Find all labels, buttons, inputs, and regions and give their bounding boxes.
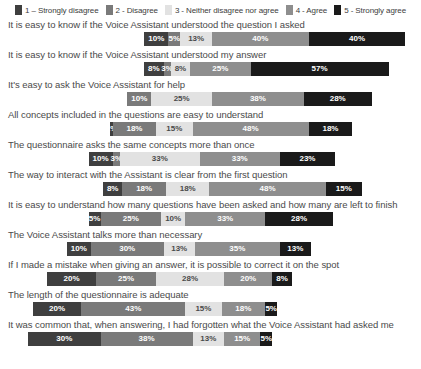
row-label: The questionnaire asks the same concepts… xyxy=(8,139,255,150)
bar-segment-value: 10% xyxy=(71,245,87,253)
bar-segment-value: 33% xyxy=(217,215,233,223)
bar-segment-value: 18% xyxy=(180,185,196,193)
chart-row: It's easy to ask the Voice Assistant for… xyxy=(0,79,421,109)
legend-label: 5 - Strongly agree xyxy=(344,6,406,15)
chart-row: The length of the questionnaire is adequ… xyxy=(0,289,421,319)
bar-segment-value: 28% xyxy=(291,215,307,223)
bar-segment-value: 25% xyxy=(212,65,228,73)
bar-segment-5[interactable]: 57% xyxy=(251,62,389,76)
bar-segment-5[interactable]: 40% xyxy=(309,32,406,46)
bar-segment-4[interactable]: 40% xyxy=(212,32,309,46)
bar-segment-value: 8% xyxy=(148,65,160,73)
stacked-bar: 10%5%13%40%40% xyxy=(144,32,405,46)
bar-segment-2[interactable]: 43% xyxy=(81,302,185,316)
bar-segment-3[interactable]: 10% xyxy=(161,212,185,226)
bar-segment-1[interactable]: 30% xyxy=(28,332,101,346)
stacked-bar: 10%3%33%33%23% xyxy=(89,152,336,166)
bar-segment-4[interactable]: 18% xyxy=(222,302,266,316)
bar-segment-4[interactable]: 35% xyxy=(195,242,280,256)
row-label: The way to interact with the Assistant i… xyxy=(8,169,287,180)
bar-segment-3[interactable]: 28% xyxy=(156,272,224,286)
bar-segment-1[interactable]: 5% xyxy=(89,212,101,226)
bar-segment-2[interactable]: 38% xyxy=(101,332,193,346)
bar-segment-5[interactable]: 13% xyxy=(280,242,311,256)
bar-segment-2[interactable]: 10% xyxy=(127,92,151,106)
bar-segment-value: 8% xyxy=(107,185,119,193)
bar-segment-2[interactable]: 30% xyxy=(91,242,164,256)
bar-segment-1[interactable]: 10% xyxy=(144,32,168,46)
legend-item-3[interactable]: 3 - Neither disagree nor agree xyxy=(165,5,279,15)
bar-segment-value: 18% xyxy=(322,125,338,133)
bar-segment-value: 15% xyxy=(336,185,352,193)
bar-segment-3[interactable]: 33% xyxy=(120,152,200,166)
legend-swatch-icon-2 xyxy=(106,5,113,15)
row-label: All concepts included in the questions a… xyxy=(8,109,263,120)
stacked-bar: 20%25%28%20%8% xyxy=(47,272,291,286)
bar-segment-5[interactable]: 23% xyxy=(280,152,336,166)
bar-segment-5[interactable]: 28% xyxy=(265,212,333,226)
bar-segment-value: 13% xyxy=(200,335,216,343)
bar-segment-4[interactable]: 38% xyxy=(212,92,304,106)
bar-segment-2[interactable]: 5% xyxy=(168,32,180,46)
bar-segment-value: 15% xyxy=(234,335,250,343)
bar-segment-2[interactable]: 18% xyxy=(122,182,166,196)
bar-segment-5[interactable]: 8% xyxy=(272,272,291,286)
bar-segment-1[interactable]: 10% xyxy=(67,242,91,256)
chart-row: It is easy to know if the Voice Assistan… xyxy=(0,49,421,79)
bar-segment-3[interactable]: 13% xyxy=(164,242,195,256)
bar-segment-value: 20% xyxy=(240,275,256,283)
bar-segment-value: 38% xyxy=(139,335,155,343)
bar-segment-1[interactable]: 20% xyxy=(47,272,95,286)
bar-segment-3[interactable]: 8% xyxy=(171,62,190,76)
bar-segment-5[interactable]: 18% xyxy=(309,122,353,136)
bar-segment-4[interactable]: 33% xyxy=(185,212,265,226)
legend-swatch-icon-1 xyxy=(15,5,22,15)
bar-segment-3[interactable]: 18% xyxy=(166,182,210,196)
stacked-bar: 30%38%13%15%5% xyxy=(28,332,272,346)
legend-label: 3 - Neither disagree nor agree xyxy=(175,6,279,15)
bar-segment-1[interactable]: 8% xyxy=(103,182,122,196)
bar-segment-value: 15% xyxy=(166,125,182,133)
legend-item-2[interactable]: 2 - Disagree xyxy=(106,5,158,15)
bar-segment-4[interactable]: 15% xyxy=(224,332,260,346)
bar-segment-2[interactable]: 18% xyxy=(113,122,157,136)
bar-segment-2[interactable]: 3% xyxy=(113,152,120,166)
bar-segment-value: 20% xyxy=(49,305,65,313)
row-label: It is easy to understand how many questi… xyxy=(8,199,397,210)
chart-row: If I made a mistake when giving an answe… xyxy=(0,259,421,289)
bar-segment-5[interactable]: 5% xyxy=(265,302,277,316)
bar-segment-value: 5% xyxy=(265,305,277,313)
bar-segment-value: 8% xyxy=(175,65,187,73)
row-label: The length of the questionnaire is adequ… xyxy=(8,289,189,300)
chart-row: It is easy to understand how many questi… xyxy=(0,199,421,229)
bar-segment-1[interactable]: 20% xyxy=(33,302,81,316)
bar-segment-3[interactable]: 13% xyxy=(180,32,211,46)
bar-segment-4[interactable]: 25% xyxy=(190,62,251,76)
legend-item-1[interactable]: 1 – Strongly disagree xyxy=(15,5,99,15)
bar-segment-1[interactable]: 10% xyxy=(89,152,113,166)
row-label: The Voice Assistant talks more than nece… xyxy=(8,229,202,240)
bar-segment-4[interactable]: 20% xyxy=(224,272,272,286)
bar-segment-5[interactable]: 15% xyxy=(326,182,362,196)
bar-segment-2[interactable]: 25% xyxy=(101,212,162,226)
bar-segment-2[interactable]: 25% xyxy=(96,272,157,286)
bar-segment-4[interactable]: 48% xyxy=(209,182,325,196)
legend-item-5[interactable]: 5 - Strongly agree xyxy=(334,5,406,15)
bar-segment-5[interactable]: 5% xyxy=(260,332,272,346)
bar-segment-4[interactable]: 33% xyxy=(200,152,280,166)
bar-segment-value: 33% xyxy=(152,155,168,163)
bar-segment-value: 43% xyxy=(125,305,141,313)
bar-segment-4[interactable]: 48% xyxy=(193,122,309,136)
legend-label: 1 – Strongly disagree xyxy=(25,6,99,15)
bar-segment-3[interactable]: 15% xyxy=(156,122,192,136)
legend-item-4[interactable]: 4 - Agree xyxy=(286,5,328,15)
bar-segment-value: 10% xyxy=(148,35,164,43)
bar-segment-3[interactable]: 13% xyxy=(193,332,224,346)
bar-segment-5[interactable]: 28% xyxy=(304,92,372,106)
bar-segment-3[interactable]: 25% xyxy=(151,92,212,106)
bar-segment-value: 10% xyxy=(165,215,181,223)
bar-segment-3[interactable]: 15% xyxy=(185,302,221,316)
legend-swatch-icon-3 xyxy=(165,5,172,15)
stacked-bar: 1%18%15%48%18% xyxy=(110,122,352,136)
bar-segment-2[interactable]: 3% xyxy=(164,62,171,76)
